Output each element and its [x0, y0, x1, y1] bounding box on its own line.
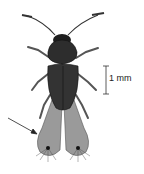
arrow-annotation	[8, 118, 37, 134]
beetle-illustration	[0, 0, 144, 174]
scale-bar-label: 1 mm	[109, 73, 132, 83]
beetle-pronotum	[48, 40, 77, 64]
antennae	[22, 13, 104, 35]
beetle-figure: 1 mm	[0, 0, 144, 174]
